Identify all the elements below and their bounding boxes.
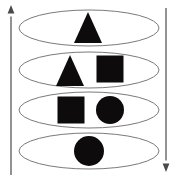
diagram-canvas: Stacked layer diagram with shape composi… [0,0,179,179]
shape-circle [74,136,104,166]
shape-circle [96,96,124,124]
right-axis-arrow [163,8,170,172]
right-axis-arrowhead-down-icon [163,164,170,173]
left-axis-arrow [8,5,15,175]
layer-3-group [19,92,159,128]
shape-square [97,56,124,83]
layer-1-group [19,10,159,46]
layered-shapes-diagram [0,0,179,179]
layer-ellipse [19,52,159,88]
layer-ellipse [19,92,159,128]
layer-2-group [19,52,159,88]
shape-square [58,97,85,124]
layer-4-group [19,133,159,169]
left-axis-arrowhead-up-icon [8,5,15,14]
